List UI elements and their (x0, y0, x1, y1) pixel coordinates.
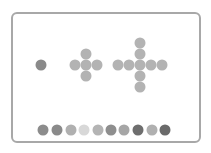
palette-color-option[interactable] (119, 125, 130, 136)
color-palette (0, 0, 211, 153)
palette-color-option[interactable] (160, 125, 171, 136)
palette-color-option[interactable] (93, 125, 104, 136)
palette-color-option[interactable] (106, 125, 117, 136)
palette-color-option[interactable] (38, 125, 49, 136)
palette-color-option[interactable] (79, 125, 90, 136)
palette-color-option[interactable] (147, 125, 158, 136)
palette-color-option[interactable] (52, 125, 63, 136)
palette-color-option[interactable] (66, 125, 77, 136)
palette-color-option[interactable] (133, 125, 144, 136)
